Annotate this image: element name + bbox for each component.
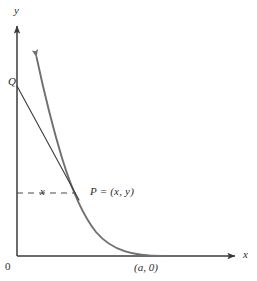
point-p-label: P = (x, y) xyxy=(90,186,134,197)
figure-root: y x 0 Q x P = (x, y) (a, 0) xyxy=(0,0,257,281)
diagram-canvas xyxy=(0,0,257,281)
origin-label: 0 xyxy=(5,261,11,272)
x-axis-label: x xyxy=(243,249,248,260)
point-q-label: Q xyxy=(8,76,16,87)
a-zero-label: (a, 0) xyxy=(134,262,158,273)
x-segment-label: x xyxy=(40,186,45,197)
y-axis-label: y xyxy=(14,5,19,16)
